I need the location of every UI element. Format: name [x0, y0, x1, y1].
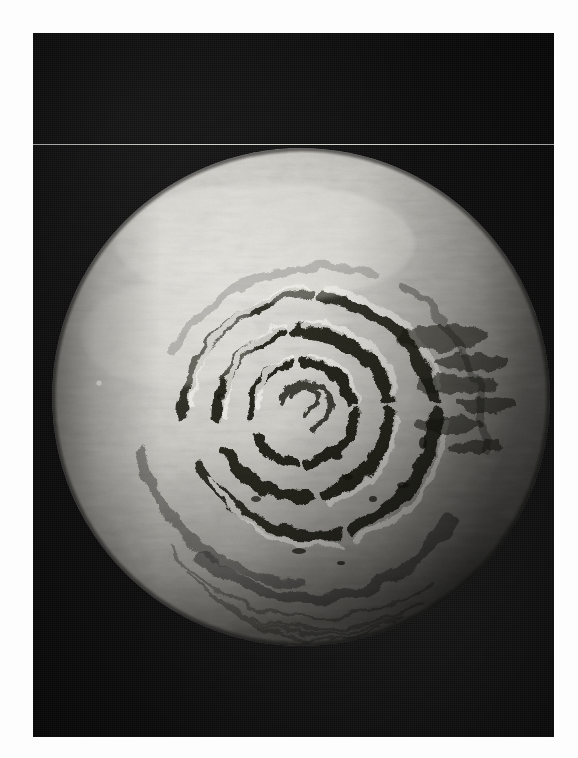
- scan-line-artifact: [33, 144, 554, 145]
- disk-contents: [51, 147, 551, 647]
- photo-page: [0, 0, 578, 758]
- photographic-plate: [33, 33, 554, 737]
- planet-svg: [51, 147, 551, 647]
- planet-disk: [51, 147, 551, 647]
